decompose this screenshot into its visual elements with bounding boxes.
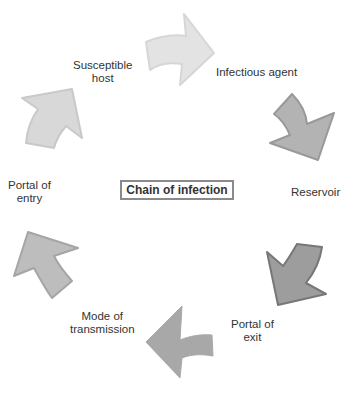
diagram-title-box: Chain of infection [120, 180, 234, 200]
node-label-line: exit [231, 331, 274, 344]
node-label-line: host [73, 72, 132, 85]
node-label-line: Mode of [70, 310, 135, 323]
node-infectious-agent: Infectious agent [216, 66, 297, 79]
node-susceptible-host: Susceptible host [73, 59, 132, 85]
node-mode-of-transmission: Mode of transmission [70, 310, 135, 336]
chain-of-infection-diagram: Chain of infection Infectious agent Rese… [0, 0, 343, 395]
arrow-right-icon [146, 14, 214, 85]
node-label-line: entry [8, 192, 51, 205]
node-label-line: Portal of [231, 318, 274, 331]
arrow-left-icon [146, 306, 213, 378]
arrow-up-right-icon [22, 89, 82, 148]
node-label-line: Susceptible [73, 59, 132, 72]
arrow-down-icon [270, 94, 334, 160]
arrow-up-left-icon [14, 232, 78, 298]
arrow-down-left-icon [267, 244, 326, 305]
node-label-line: transmission [70, 323, 135, 336]
diagram-title: Chain of infection [126, 183, 227, 197]
node-portal-of-entry: Portal of entry [8, 179, 51, 205]
node-portal-of-exit: Portal of exit [231, 318, 274, 344]
node-reservoir: Reservoir [291, 186, 340, 199]
node-label-line: Reservoir [291, 186, 340, 199]
node-label-line: Portal of [8, 179, 51, 192]
node-label-line: Infectious agent [216, 66, 297, 79]
